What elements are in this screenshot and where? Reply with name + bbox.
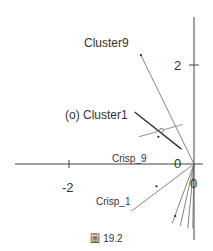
label-crisp9: Crisp_9 [112, 153, 147, 164]
point-cluster1-marker [160, 128, 164, 132]
biplot-chart: Cluster9 (o) Cluster1 Crisp_9 Crisp_1 -2… [0, 0, 213, 251]
label-cluster9: Cluster9 [84, 36, 129, 50]
label-cluster1: (o) Cluster1 [65, 108, 128, 122]
y-tick-label-0: 0 [190, 176, 197, 191]
cluster1-axis-segment [135, 112, 182, 149]
label-crisp1: Crisp_1 [96, 196, 131, 207]
x-tick-label-0: 0 [174, 156, 181, 171]
y-tick-label-2: 2 [174, 58, 181, 73]
point-dot-c [174, 215, 176, 217]
vector-crisp-1 [132, 164, 195, 211]
point-dot-b [155, 185, 157, 187]
point-cluster9-end [140, 54, 142, 56]
vector-cluster9 [141, 55, 194, 164]
figure-caption: 圖 19.2 [0, 230, 213, 245]
point-dot-a [157, 136, 159, 138]
x-tick-label-neg2: -2 [62, 180, 74, 195]
